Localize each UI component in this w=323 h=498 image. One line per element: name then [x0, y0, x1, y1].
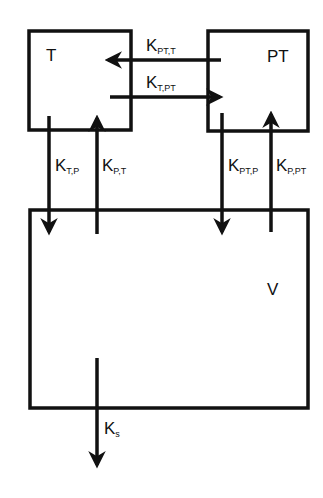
rate-subscript: P,PT [287, 166, 306, 176]
rate-label-k-t-pt: KT,PT [146, 74, 176, 93]
rate-subscript: P,T [113, 166, 126, 176]
rate-label-k-pt-t: KPT,T [146, 37, 176, 56]
rate-subscript: PT,P [239, 166, 258, 176]
rate-label-k-s: Ks [104, 420, 120, 439]
rate-symbol: K [104, 419, 115, 438]
rate-subscript: T,PT [157, 83, 176, 93]
rate-subscript: PT,T [157, 46, 176, 56]
compartment-t-box [29, 31, 131, 130]
rate-subscript: T,P [66, 166, 79, 176]
rate-symbol: K [55, 156, 66, 175]
rate-label-k-p-pt: KP,PT [276, 157, 306, 176]
rate-symbol: K [146, 36, 157, 55]
compartment-v-label: V [267, 281, 278, 298]
compartment-pt-label: PT [267, 48, 289, 65]
compartment-t-label: T [46, 47, 56, 64]
rate-label-k-t-p: KT,P [55, 157, 79, 176]
compartment-v-box [30, 210, 308, 408]
rate-symbol: K [276, 156, 287, 175]
rate-label-k-p-t: KP,T [102, 157, 126, 176]
rate-symbol: K [146, 73, 157, 92]
rate-label-k-pt-p: KPT,P [228, 157, 258, 176]
rate-subscript: s [115, 429, 120, 439]
rate-symbol: K [228, 156, 239, 175]
rate-symbol: K [102, 156, 113, 175]
